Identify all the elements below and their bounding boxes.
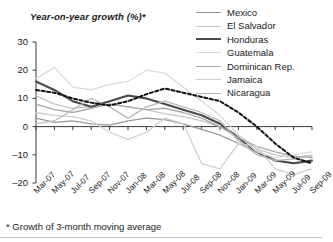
legend-item-dominican-rep[interactable]: Dominican Rep.	[196, 60, 322, 73]
y-axis-tick-label: –20	[4, 178, 28, 188]
legend-item-honduras[interactable]: Honduras	[196, 33, 322, 46]
legend-item-guatemala[interactable]: Guatemala	[196, 46, 322, 59]
legend-item-jamaica[interactable]: Jamaica	[196, 73, 322, 86]
chart-footnote: * Growth of 3-month moving average	[6, 221, 161, 232]
legend-label: Dominican Rep.	[227, 62, 295, 72]
legend-label: El Salvador	[227, 21, 276, 31]
legend-label: Mexico	[227, 8, 257, 18]
legend-swatch-icon	[196, 52, 221, 53]
legend-swatch-icon	[196, 38, 221, 40]
legend-label: Honduras	[227, 35, 268, 45]
legend-item-mexico[interactable]: Mexico	[196, 6, 322, 19]
legend-label: Nicaragua	[227, 88, 270, 98]
legend-item-el-salvador[interactable]: El Salvador	[196, 19, 322, 32]
legend-swatch-icon	[196, 79, 221, 80]
series-line-dominican-rep	[36, 104, 312, 158]
y-axis-tick-label: 20	[4, 65, 28, 75]
chart-legend: MexicoEl SalvadorHondurasGuatemalaDomini…	[196, 6, 322, 100]
legend-item-nicaragua[interactable]: Nicaragua	[196, 86, 322, 99]
y-axis-tick-label: 10	[4, 93, 28, 103]
y-axis-tick-label: 30	[4, 37, 28, 47]
legend-swatch-icon	[196, 66, 221, 67]
legend-label: Jamaica	[227, 75, 262, 85]
series-line-average	[36, 89, 312, 164]
legend-swatch-icon	[196, 26, 221, 27]
legend-swatch-icon	[196, 93, 221, 94]
legend-label: Guatemala	[227, 48, 273, 58]
legend-swatch-icon	[196, 12, 221, 13]
bottom-divider	[0, 237, 322, 238]
y-axis-tick-label: –10	[4, 150, 28, 160]
y-axis-tick-label: 0	[4, 122, 28, 132]
